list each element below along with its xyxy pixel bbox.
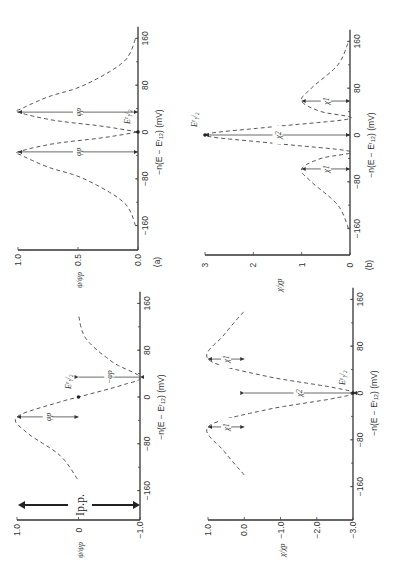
y-axis-label: ψ/ψp [76,542,85,558]
peak-annotation: χ1 [322,165,331,174]
x-axis-label: −n(E − Eʳ₁₂) (mV) [366,112,376,178]
y-tick-label: 0.5 [73,254,83,266]
x-tick-label: −80 [355,432,365,447]
x-tick-label: −160 [142,481,152,500]
y-tick-label: 1.0 [13,254,23,266]
peak-annotation: χ2 [295,389,304,398]
y-tick-label: 1 [297,262,307,267]
e-half-label: Eʳ₁/₂ [64,374,73,390]
y-tick-label: −3.0 [348,521,358,538]
chart-panel-b-top: −160−800801600123−n(E − Eʳ₁₂) (mV)χ/χp(b… [190,30,376,293]
x-tick-label: −80 [352,174,362,189]
y-tick-label: 1.0 [12,524,22,536]
peak-annotation: χ2 [274,131,283,140]
arrow-left-icon [18,501,25,509]
figure-canvas: −160−800801600.00.51.0−n(E − Eʳ₁₂) (mV)ψ… [0,0,395,566]
x-tick-label: 160 [355,292,365,306]
y-tick-label: 0.0 [239,524,249,536]
ipp-label: Ip.p. [73,494,87,516]
y-tick-label: 3 [200,262,210,267]
y-axis-label: χ/χp [278,543,287,557]
x-axis-label: −n(E − Eʳ₁₂) (mV) [369,370,379,436]
arrow-right-icon [133,501,140,509]
y-tick-label: −1.0 [135,521,145,538]
peak-annotation: φp [44,413,53,421]
e-half-point [136,130,140,134]
arrow-head-icon [75,415,79,419]
y-tick-label: 1.0 [203,524,213,536]
y-tick-label: 0 [74,527,84,532]
e-half-label: Eʳ₁/₂ [190,112,199,128]
peak-annotation: φp [74,108,83,116]
y-tick-label: 0.0 [133,254,143,266]
y-tick-label: 2 [248,262,258,267]
e-half-point [77,395,81,399]
arrow-head-icon [18,150,22,154]
e-half-point [203,133,207,137]
panel-label: (a) [152,257,162,268]
x-tick-label: 80 [140,80,150,90]
chart-panel-a-top: −160−800801600.00.51.0−n(E − Eʳ₁₂) (mV)ψ… [13,27,164,288]
arrow-head-icon [240,425,244,429]
x-tick-label: 80 [142,345,152,355]
panels: −160−800801600.00.51.0−n(E − Eʳ₁₂) (mV)ψ… [12,27,379,558]
x-axis-label: −n(E − Eʳ₁₂) (mV) [156,374,166,440]
y-tick-label: 0 [345,262,355,267]
x-tick-label: −80 [140,171,150,186]
x-tick-label: 0 [352,132,362,137]
peak-annotation: φp [74,148,83,156]
chart-panel-b-bottom: −160−80080160−3.0−2.0−1.00.01.0−n(E − Eʳ… [203,288,379,558]
x-tick-label: −80 [142,436,152,451]
arrow-head-icon [240,357,244,361]
arrow-head-icon [75,375,79,379]
x-tick-label: 160 [140,31,150,45]
x-tick-label: 160 [352,34,362,48]
x-tick-label: −160 [355,477,365,496]
arrow-head-icon [18,110,22,114]
x-axis-label: −n(E − Eʳ₁₂) (mV) [154,109,164,175]
e-half-point [351,391,355,395]
arrow-head-icon [240,391,244,395]
x-tick-label: 0 [140,129,150,134]
chart-panel-a-bottom: −160−80080160−1.001.0−n(E − Eʳ₁₂) (mV)ψ/… [12,292,166,558]
e-half-label: Eʳ₁/₂ [338,370,347,386]
peak-annotation: χ1 [222,423,231,432]
y-tick-label: −2.0 [312,521,322,538]
peak-annotation: χ1 [222,355,231,364]
y-axis-label: χ/χp [275,278,284,292]
x-tick-label: −160 [140,216,150,235]
x-tick-label: 160 [142,296,152,310]
panel-label: (b) [364,260,374,271]
y-tick-label: −1.0 [276,521,286,538]
y-axis-label: ψ/ψp [75,272,84,288]
peak-annotation: −φp [105,370,114,384]
x-tick-label: −160 [352,219,362,238]
x-tick-label: 0 [142,394,152,399]
ipp-annotation: Ip.p. [18,494,140,516]
peak-annotation: χ1 [322,97,331,106]
x-tick-label: 80 [352,83,362,93]
x-tick-label: 80 [355,341,365,351]
e-half-label: Eʳ₁/₂ [123,109,132,125]
